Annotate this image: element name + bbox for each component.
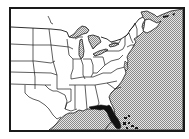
map-frame: [9, 7, 185, 132]
locator-map: [11, 9, 183, 130]
